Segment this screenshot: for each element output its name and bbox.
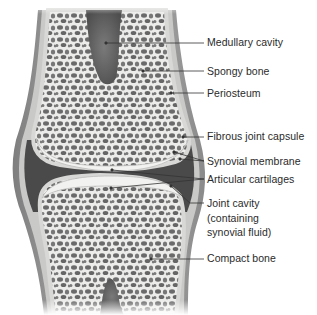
synovial-joint-diagram: Medullary cavity Spongy bone Periosteum … bbox=[0, 0, 317, 315]
label-joint-cavity-line-3: synovial fluid) bbox=[207, 225, 271, 240]
label-articular-cartilages: Articular cartilages bbox=[207, 173, 294, 186]
label-compact-bone: Compact bone bbox=[207, 252, 276, 265]
label-spongy-bone: Spongy bone bbox=[207, 65, 269, 78]
label-medullary-cavity: Medullary cavity bbox=[207, 36, 283, 49]
label-periosteum: Periosteum bbox=[207, 87, 261, 100]
label-joint-cavity: Joint cavity (containing synovial fluid) bbox=[207, 196, 271, 240]
label-joint-cavity-line-1: Joint cavity bbox=[207, 196, 271, 211]
label-joint-cavity-line-2: (containing bbox=[207, 211, 271, 226]
label-synovial-membrane: Synovial membrane bbox=[207, 155, 301, 168]
label-fibrous-joint-capsule: Fibrous joint capsule bbox=[207, 130, 304, 143]
